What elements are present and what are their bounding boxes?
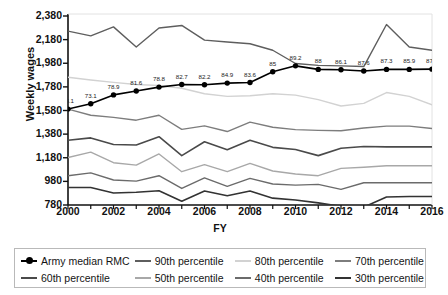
legend-label: 40th percentile	[255, 272, 324, 284]
legend-label: 30th percentile	[355, 272, 424, 284]
legend-swatch-icon	[235, 256, 251, 266]
legend-swatch-icon	[135, 273, 151, 283]
data-point	[202, 82, 207, 87]
legend-label: 70th percentile	[355, 255, 424, 267]
x-axis-title: FY	[0, 222, 440, 234]
data-point	[134, 88, 139, 93]
data-point	[293, 63, 298, 68]
legend-swatch-icon	[135, 256, 151, 266]
legend-label: 50th percentile	[155, 272, 224, 284]
legend-swatch-icon	[235, 273, 251, 283]
data-point	[179, 82, 184, 87]
data-point	[270, 69, 275, 74]
data-point-label: 88	[315, 57, 322, 64]
legend-swatch-icon	[21, 273, 37, 283]
legend-item[interactable]: Army median RMC	[21, 252, 135, 269]
legend-swatch-icon	[335, 273, 351, 283]
data-point-label: 73.1	[85, 92, 98, 99]
series-line	[68, 188, 432, 208]
legend-item[interactable]: 60th percentile	[21, 269, 135, 286]
data-point-label: 85.9	[403, 57, 416, 64]
legend-label: 90th percentile	[155, 255, 224, 267]
data-point-label: 85	[269, 60, 276, 67]
data-point	[429, 66, 434, 71]
series-line	[68, 137, 432, 156]
data-point	[361, 68, 366, 73]
series-line	[68, 173, 432, 190]
data-point-label: 78.8	[153, 75, 166, 82]
legend-item[interactable]: 30th percentile	[335, 269, 421, 286]
data-point-label: 84.9	[221, 71, 234, 78]
chart-legend: Army median RMC90th percentile80th perce…	[14, 248, 426, 288]
data-point-label: 87.3	[380, 57, 393, 64]
series-line	[68, 152, 432, 176]
data-point	[111, 92, 116, 97]
data-point	[338, 67, 343, 72]
series-line	[68, 109, 432, 131]
data-point-label: 87.6	[358, 59, 371, 66]
data-point-label: 82.2	[198, 73, 211, 80]
data-point-label: 86.1	[335, 58, 348, 65]
legend-label: 80th percentile	[255, 255, 324, 267]
series-line	[68, 25, 432, 67]
legend-item[interactable]: 90th percentile	[135, 252, 235, 269]
data-point-label: 81.6	[130, 79, 143, 86]
legend-item[interactable]: 40th percentile	[235, 269, 335, 286]
data-point-label: 78.9	[107, 83, 120, 90]
legend-item[interactable]: 50th percentile	[135, 269, 235, 286]
data-point	[384, 67, 389, 72]
legend-swatch-icon	[21, 256, 37, 266]
data-point	[156, 84, 161, 89]
data-point-label: 73.1	[62, 97, 75, 104]
data-point-label: 83.6	[244, 71, 257, 78]
data-point	[407, 67, 412, 72]
legend-label: 60th percentile	[41, 272, 110, 284]
data-point	[225, 80, 230, 85]
data-point-label: 89.2	[289, 54, 302, 61]
data-point	[316, 67, 321, 72]
data-point	[88, 101, 93, 106]
legend-label: Army median RMC	[41, 255, 130, 267]
legend-item[interactable]: 80th percentile	[235, 252, 335, 269]
plot-area: 73.173.178.981.678.882.782.284.983.68589…	[0, 0, 440, 215]
legend-item[interactable]: 70th percentile	[335, 252, 421, 269]
chart-svg: 73.173.178.981.678.882.782.284.983.68589…	[0, 0, 440, 215]
legend-swatch-icon	[335, 256, 351, 266]
data-point	[247, 80, 252, 85]
legend-row-1: Army median RMC90th percentile80th perce…	[21, 252, 421, 269]
data-point-label: 82.7	[176, 73, 189, 80]
legend-row-2: 60th percentile50th percentile40th perce…	[21, 269, 421, 286]
